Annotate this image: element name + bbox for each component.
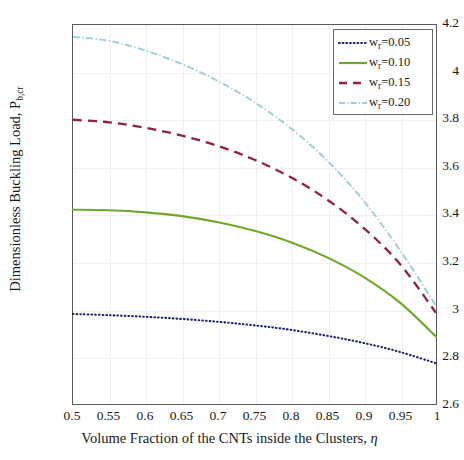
x-axis-title-main: Volume Fraction of the CNTs inside the C… [81,430,370,446]
legend-swatch-dashdot-icon [338,97,368,109]
x-axis-title-symbol: η [370,430,377,446]
legend-label-1: wr=0.10 [369,55,410,71]
legend-label-0: wr=0.05 [369,35,410,51]
plot-area: wr=0.05 wr=0.10 wr=0.15 wr=0.20 [72,24,437,405]
legend-label-2: wr=0.15 [369,75,410,91]
legend-item-1[interactable]: wr=0.10 [334,53,432,73]
legend-item-0[interactable]: wr=0.05 [334,33,432,53]
legend-swatch-dashed-icon [338,77,368,89]
legend-swatch-dotted-icon [338,37,368,49]
legend-item-2[interactable]: wr=0.15 [334,73,432,93]
series-line-wr-005 [73,314,436,363]
series-line-wr-010 [73,210,436,337]
legend-swatch-solid-icon [338,57,368,69]
x-tick-label-1: 1 [407,408,464,424]
legend-item-3[interactable]: wr=0.20 [334,93,432,113]
y-axis-title: Dimensionless Buckling Load, Pb,cr [7,19,25,359]
bottom-caption-cut [18,449,438,460]
legend-label-3: wr=0.20 [369,95,410,111]
series-line-wr-015 [73,120,436,313]
x-axis-title: Volume Fraction of the CNTs inside the C… [0,430,459,447]
y-axis-title-main: Dimensionless Buckling Load, P [7,101,23,292]
y-axis-title-subscript: b,cr [15,86,25,101]
legend-box[interactable]: wr=0.05 wr=0.10 wr=0.15 wr=0.20 [333,29,433,115]
top-cut-text [0,0,459,14]
